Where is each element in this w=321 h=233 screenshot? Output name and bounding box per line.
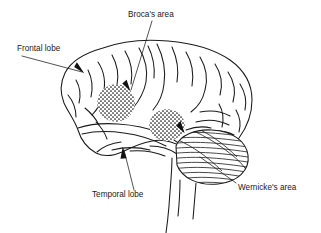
brain-diagram: Broca's area Frontal lobe Temporal lobe … (0, 0, 321, 233)
label-temporal-lobe: Temporal lobe (92, 190, 144, 199)
label-brocas-area: Broca's area (128, 10, 174, 19)
label-wernickes-area: Wernicke's area (238, 183, 297, 192)
label-frontal-lobe: Frontal lobe (17, 44, 61, 53)
